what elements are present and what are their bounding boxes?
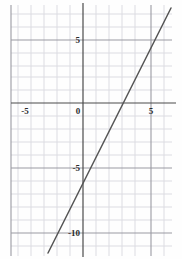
coordinate-plane-chart: -5 0 5 5 -5 -10 [0,0,182,259]
y-tick-label-pos5: 5 [76,36,81,45]
x-tick-label-pos5: 5 [149,107,154,116]
x-tick-label-zero: 0 [76,107,81,116]
y-tick-label-neg10: -10 [68,229,80,238]
major-gridlines [11,5,172,256]
grid-and-line-svg [0,0,182,259]
minor-gridlines-vertical [18,5,164,256]
y-tick-label-neg5: -5 [73,164,81,173]
x-tick-label-neg5: -5 [21,107,29,116]
minor-gridlines-horizontal [11,14,172,246]
